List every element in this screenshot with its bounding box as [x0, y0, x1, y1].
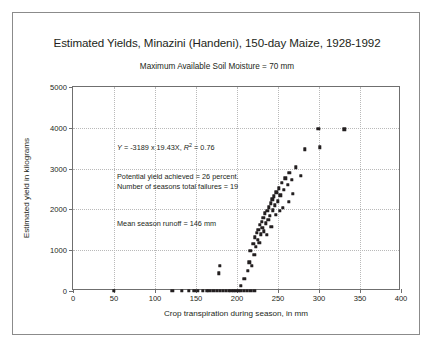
x-tick-mark: [155, 289, 156, 293]
data-point: [282, 188, 285, 191]
data-point: [239, 284, 242, 287]
y-tick-mark: [69, 169, 73, 170]
data-point: [318, 146, 321, 149]
data-point: [246, 269, 249, 272]
data-point: [303, 148, 306, 151]
data-point: [243, 277, 246, 280]
x-tick-mark: [73, 289, 74, 293]
plot-area: 0501001502002503003504000100020003000400…: [72, 86, 400, 290]
x-tick-label: 50: [110, 294, 118, 303]
y-axis-label: Estimated yield in kilograms: [22, 138, 31, 238]
x-axis-label: Crop transpiration during season, in mm: [72, 309, 400, 318]
data-point: [291, 192, 294, 195]
data-point: [277, 186, 280, 189]
data-point: [286, 183, 289, 186]
x-tick-label: 100: [149, 294, 162, 303]
data-point: [280, 181, 283, 184]
y-tick-label: 4000: [50, 123, 67, 132]
x-tick-label: 150: [190, 294, 203, 303]
data-point: [290, 178, 293, 181]
data-point: [255, 231, 258, 234]
gridline-vertical: [114, 87, 115, 289]
data-point: [268, 214, 271, 217]
chart-title: Estimated Yields, Minazini (Handeni), 15…: [0, 36, 434, 49]
x-tick-mark: [278, 289, 279, 293]
data-point: [266, 209, 269, 212]
gridline-vertical: [196, 87, 197, 289]
data-point: [257, 228, 260, 231]
data-point: [260, 220, 263, 223]
data-point: [264, 222, 267, 225]
data-point: [262, 216, 265, 219]
data-point: [274, 213, 277, 216]
x-tick-mark: [319, 289, 320, 293]
data-point: [253, 253, 256, 256]
x-tick-label: 0: [71, 294, 75, 303]
data-point: [270, 225, 273, 228]
gridline-horizontal: [73, 209, 399, 210]
y-tick-mark: [69, 250, 73, 251]
data-point: [217, 272, 220, 275]
x-tick-mark: [401, 289, 402, 293]
data-point: [269, 202, 272, 205]
gridline-vertical: [360, 87, 361, 289]
gridline-vertical: [237, 87, 238, 289]
y-tick-label: 2000: [50, 205, 67, 214]
data-point: [288, 171, 291, 174]
data-point: [279, 193, 282, 196]
y-tick-label: 1000: [50, 246, 67, 255]
x-tick-label: 300: [313, 294, 326, 303]
data-point: [273, 204, 276, 207]
data-point: [272, 195, 275, 198]
data-point: [271, 197, 274, 200]
data-point: [265, 233, 268, 236]
y-tick-mark: [69, 128, 73, 129]
x-tick-label: 200: [231, 294, 244, 303]
data-point: [299, 174, 302, 177]
data-point: [250, 264, 253, 267]
x-tick-mark: [360, 289, 361, 293]
data-point: [271, 209, 274, 212]
data-point: [276, 200, 279, 203]
x-tick-label: 250: [272, 294, 285, 303]
gridline-horizontal: [73, 128, 399, 129]
data-point: [257, 241, 260, 244]
x-tick-label: 350: [354, 294, 367, 303]
data-point: [266, 218, 269, 221]
data-point: [343, 128, 346, 131]
chart-figure: Estimated Yields, Minazini (Handeni), 15…: [0, 0, 434, 349]
y-tick-mark: [69, 291, 73, 292]
x-tick-label: 400: [395, 294, 408, 303]
data-point: [254, 245, 257, 248]
y-tick-label: 5000: [50, 83, 67, 92]
data-point: [248, 249, 251, 252]
y-tick-label: 3000: [50, 164, 67, 173]
gridline-horizontal: [73, 250, 399, 251]
data-point: [218, 264, 221, 267]
y-tick-label: 0: [63, 287, 67, 296]
chart-subtitle: Maximum Available Soil Moisture = 70 mm: [0, 62, 434, 71]
data-point: [278, 209, 281, 212]
gridline-vertical: [319, 87, 320, 289]
y-tick-mark: [69, 87, 73, 88]
gridline-horizontal: [73, 169, 399, 170]
data-point: [259, 233, 262, 236]
y-tick-mark: [69, 209, 73, 210]
data-point: [284, 177, 287, 180]
gridline-vertical: [155, 87, 156, 289]
data-point: [287, 200, 290, 203]
